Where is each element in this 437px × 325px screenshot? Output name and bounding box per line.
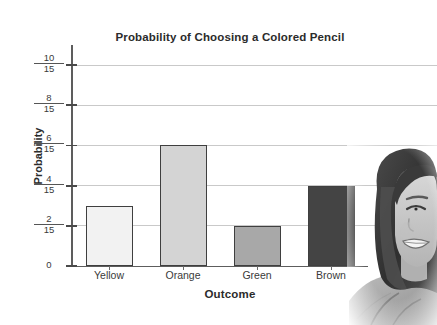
- y-axis-tick: [66, 265, 77, 267]
- x-axis-tick-label-green: Green: [219, 269, 295, 281]
- bar-green: [234, 226, 281, 266]
- x-axis-tick-label-orange: Orange: [145, 269, 221, 281]
- y-axis-tick-label: 415: [34, 174, 64, 195]
- fraction-denominator: 15: [34, 144, 64, 154]
- y-axis-tick-label: 0: [34, 260, 64, 270]
- bar-orange: [160, 145, 207, 266]
- y-axis-tick-label: 1015: [34, 53, 64, 74]
- student-photo: [347, 143, 437, 325]
- y-axis-tick-label: 815: [34, 93, 64, 114]
- y-axis-line: [71, 45, 73, 267]
- y-axis-tick: [66, 225, 77, 227]
- bar-yellow: [86, 206, 133, 266]
- x-axis-line: [71, 266, 368, 268]
- y-axis-tick-label: 215: [34, 214, 64, 235]
- fraction-denominator: 15: [34, 185, 64, 195]
- fraction-denominator: 15: [34, 104, 64, 114]
- x-axis-tick-label-yellow: Yellow: [71, 269, 147, 281]
- x-axis-tick-label-brown: Brown: [293, 269, 369, 281]
- y-axis-tick: [66, 145, 77, 147]
- chart-title: Probability of Choosing a Colored Pencil: [70, 31, 390, 43]
- fraction-denominator: 15: [34, 225, 64, 235]
- y-axis-tick: [66, 104, 77, 106]
- screenshot-root: Probability of Choosing a Colored Pencil…: [0, 0, 437, 325]
- bar-chart-figure: Probability of Choosing a Colored Pencil…: [0, 0, 437, 325]
- student-photo-illustration: [347, 143, 437, 325]
- y-axis-tick: [66, 185, 77, 187]
- tick-value: 0: [46, 259, 51, 270]
- gridline: [72, 65, 437, 66]
- y-axis-tick: [66, 64, 77, 66]
- fraction-numerator: 4: [34, 174, 64, 185]
- y-axis-tick-label: 615: [34, 133, 64, 154]
- gridline: [72, 105, 437, 106]
- x-axis-title: Outcome: [70, 288, 390, 300]
- fraction-denominator: 15: [34, 64, 64, 74]
